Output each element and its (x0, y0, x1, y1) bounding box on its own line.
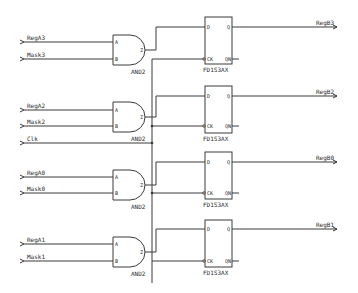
pin-label: D (207, 226, 210, 232)
pin-label: D (207, 24, 210, 30)
flip-flop-4[interactable]: D Q CK QN FD1S3AX (203, 220, 239, 276)
input-port-mask1[interactable]: Mask1 (20, 253, 113, 263)
input-port-rega1[interactable]: RegA1 (20, 236, 113, 246)
input-port-mask2[interactable]: Mask2 (20, 118, 113, 128)
ff-type-label: FD1S3AX (203, 269, 229, 276)
pin-label: Q (227, 24, 230, 30)
pin-label: Q (227, 93, 230, 99)
output-port-regb1[interactable]: RegB1 (232, 221, 337, 231)
input-chevron-icon (20, 191, 24, 195)
pin-label: B (115, 190, 118, 196)
input-chevron-icon (20, 57, 24, 61)
junction-dot-icon (151, 125, 154, 128)
flip-flop-1[interactable]: D Q CK QN FD1S3AX (203, 17, 239, 73)
clock-bubble-icon (203, 125, 205, 127)
pin-label: D (207, 159, 210, 165)
pin-label: Q (227, 159, 230, 165)
input-chevron-icon (20, 175, 24, 179)
wire (145, 96, 205, 117)
pin-label: CK (207, 123, 213, 129)
input-chevron-icon (20, 108, 24, 112)
wire (145, 229, 205, 252)
gate-type-label: AND2 (131, 135, 146, 142)
output-label: RegB2 (316, 88, 334, 96)
pin-label: QN (225, 258, 231, 264)
gate-type-label: AND2 (131, 68, 146, 75)
wire (145, 162, 205, 185)
pin-label: QN (225, 190, 231, 196)
output-port-regb2[interactable]: RegB2 (232, 88, 337, 98)
and-gate-3[interactable]: A B Z AND2 (113, 170, 146, 210)
pin-label: Z (140, 47, 143, 53)
input-chevron-icon (20, 242, 24, 246)
pin-label: QN (225, 123, 231, 129)
pin-label: A (115, 174, 118, 180)
pin-label: Z (140, 249, 143, 255)
input-label: Mask3 (27, 51, 45, 58)
wire (145, 27, 205, 50)
input-label: Mask1 (27, 253, 45, 260)
output-ports: RegB3 RegB2 RegB0 RegB1 (232, 19, 337, 231)
gate-type-label: AND2 (131, 203, 146, 210)
output-label: RegB0 (316, 154, 334, 162)
input-chevron-icon (20, 141, 24, 145)
pin-label: B (115, 123, 118, 129)
schematic-canvas: RegA3 Mask3 RegA2 Mask2 Clk (0, 0, 358, 293)
pin-label: QN (225, 56, 231, 62)
input-label: RegA1 (27, 236, 45, 244)
pin-label: CK (207, 258, 213, 264)
clock-bubble-icon (203, 192, 205, 194)
input-label: RegA3 (27, 34, 45, 42)
pin-label: A (115, 107, 118, 113)
input-port-rega0[interactable]: RegA0 (20, 169, 113, 179)
output-label: RegB1 (316, 221, 334, 229)
gate-type-label: AND2 (131, 270, 146, 277)
pin-label: B (115, 258, 118, 264)
and-gate-1[interactable]: A B Z AND2 (113, 35, 146, 75)
d-wires (145, 27, 205, 252)
clock-bubble-icon (203, 58, 205, 60)
flip-flop-3[interactable]: D Q CK QN FD1S3AX (203, 152, 239, 208)
input-label: Mask0 (27, 185, 45, 192)
pin-label: Z (140, 182, 143, 188)
input-label: Clk (27, 135, 38, 142)
junction-dot-icon (151, 192, 154, 195)
pin-label: A (115, 39, 118, 45)
output-port-regb0[interactable]: RegB0 (232, 154, 337, 164)
output-port-regb3[interactable]: RegB3 (232, 19, 337, 29)
input-chevron-icon (20, 124, 24, 128)
input-port-rega3[interactable]: RegA3 (20, 34, 113, 44)
input-label: RegA2 (27, 102, 45, 110)
pin-label: A (115, 241, 118, 247)
pin-label: CK (207, 190, 213, 196)
pin-label: Z (140, 114, 143, 120)
ff-type-label: FD1S3AX (203, 135, 229, 142)
flip-flop-2[interactable]: D Q CK QN FD1S3AX (203, 86, 239, 142)
ff-type-label: FD1S3AX (203, 201, 229, 208)
clock-bubble-icon (203, 260, 205, 262)
clock-bus (151, 59, 203, 283)
and-gate-2[interactable]: A B Z AND2 (113, 102, 146, 142)
pin-label: B (115, 56, 118, 62)
pin-label: Q (227, 226, 230, 232)
pin-label: CK (207, 56, 213, 62)
output-label: RegB3 (316, 19, 334, 27)
input-port-mask3[interactable]: Mask3 (20, 51, 113, 61)
input-chevron-icon (20, 40, 24, 44)
pin-label: D (207, 93, 210, 99)
input-port-rega2[interactable]: RegA2 (20, 102, 113, 112)
input-port-mask0[interactable]: Mask0 (20, 185, 113, 195)
and-gate-4[interactable]: A B Z AND2 (113, 237, 146, 277)
junction-dot-icon (151, 142, 154, 145)
ff-type-label: FD1S3AX (203, 66, 229, 73)
input-label: RegA0 (27, 169, 45, 177)
input-label: Mask2 (27, 118, 45, 125)
input-chevron-icon (20, 259, 24, 263)
